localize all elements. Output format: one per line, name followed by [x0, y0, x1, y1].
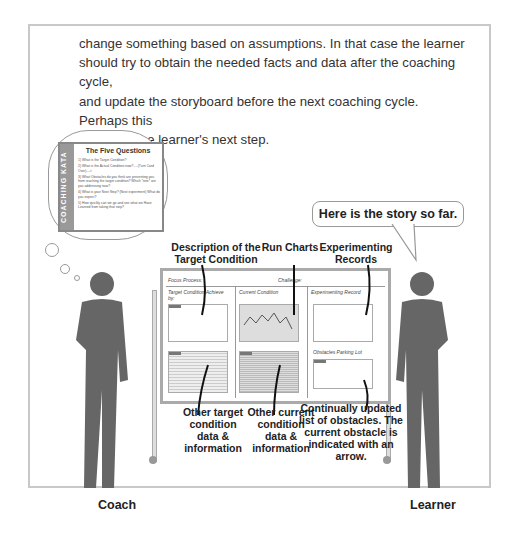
kata-question: 3) What Obstacles do you think are preve… — [78, 175, 160, 189]
learner-silhouette-icon — [392, 270, 452, 492]
kata-question: 5) How quickly can we go and see what we… — [78, 201, 160, 210]
coach-silhouette-icon — [72, 270, 132, 492]
kata-side-label: COACHING KATA — [60, 144, 74, 230]
board-stand-left — [152, 290, 157, 462]
para-line: and update the storyboard before the nex… — [79, 92, 469, 130]
callout-other-target: Other target condition data & informatio… — [178, 406, 248, 454]
kata-question: 1) What is the Target Condition? — [78, 158, 160, 163]
speech-bubble: Here is the story so far. — [312, 201, 464, 227]
wheel-icon — [149, 456, 157, 464]
learner-label: Learner — [410, 498, 456, 512]
coach-label: Coach — [98, 498, 136, 512]
kata-questions: 1) What is the Target Condition? 2) What… — [78, 158, 160, 211]
para-line: should try to obtain the needed facts an… — [79, 53, 469, 91]
callout-obstacles: Continually updated list of obstacles. T… — [296, 402, 406, 462]
thought-bubble-dot — [45, 243, 59, 257]
thought-bubble-dot — [60, 264, 70, 274]
kata-title: The Five Questions — [76, 147, 160, 154]
kata-question: 4) What is your Next Step? (Next experim… — [78, 190, 160, 199]
para-line: change something based on assumptions. I… — [79, 34, 469, 53]
callout-run-charts: Run Charts — [260, 241, 320, 253]
callout-arrows-icon — [170, 260, 390, 420]
kata-question: 2) What is the Actual Condition now? ---… — [78, 164, 160, 173]
speech-tail-icon — [390, 224, 420, 262]
coaching-kata-card: COACHING KATA The Five Questions 1) What… — [58, 142, 164, 232]
